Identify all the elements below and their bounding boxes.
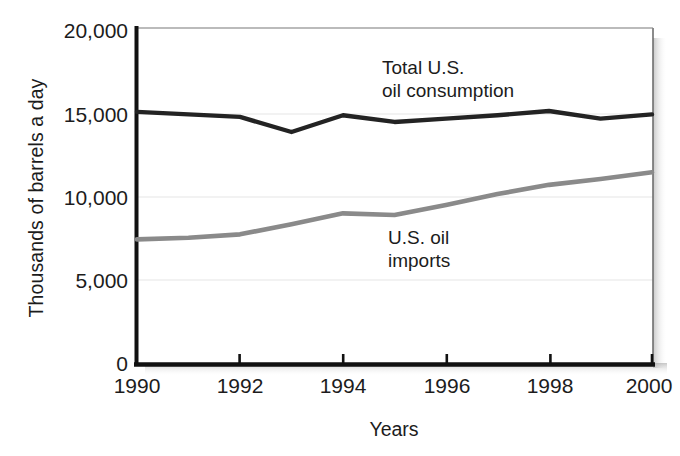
x-tick-label-1994: 1994 xyxy=(298,374,388,398)
oil-chart: Thousands of barrels a day 20,000 15,000… xyxy=(0,0,680,456)
x-tick-label-2000: 2000 xyxy=(604,374,680,398)
x-tick-label-1996: 1996 xyxy=(402,374,492,398)
x-tick-label-1990: 1990 xyxy=(92,374,182,398)
frame-shadow-right xyxy=(653,38,667,368)
annotation-total-us-oil-consumption: Total U.S. oil consumption xyxy=(382,56,514,102)
x-axis-title: Years xyxy=(135,418,653,441)
x-axis-tick-labels: 1990 1992 1994 1996 1998 2000 xyxy=(0,374,680,406)
x-tick-label-1992: 1992 xyxy=(195,374,285,398)
annotation-us-oil-imports: U.S. oil imports xyxy=(388,226,450,272)
x-tick-label-1998: 1998 xyxy=(505,374,595,398)
